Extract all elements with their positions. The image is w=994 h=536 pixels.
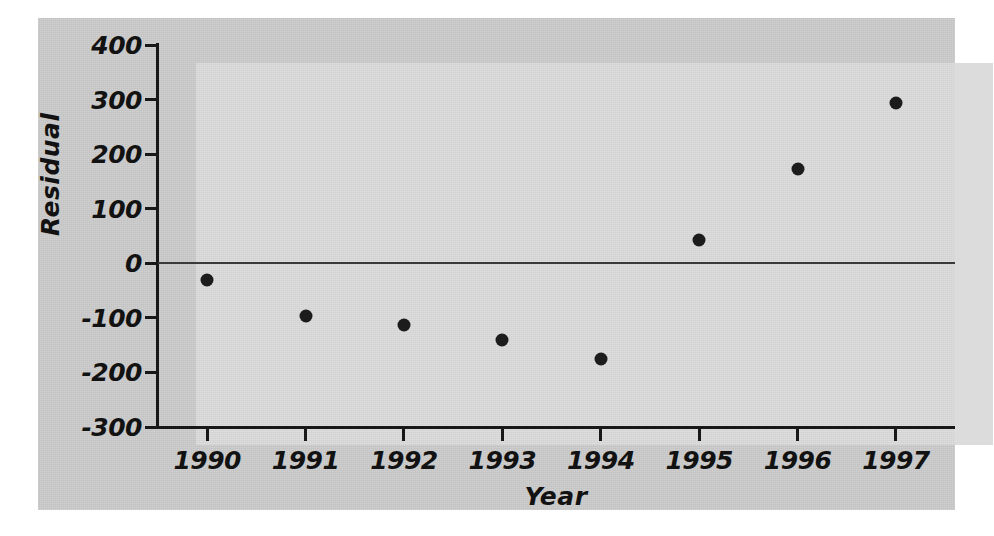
y-axis-tick-label: 300 — [32, 85, 142, 114]
data-point — [889, 96, 902, 109]
y-axis-tick — [145, 98, 157, 101]
y-axis-tick — [145, 262, 157, 265]
y-axis-tick — [145, 426, 157, 429]
x-axis-tick-label: 1991 — [272, 446, 340, 475]
data-point — [201, 274, 214, 287]
y-axis-tick-label: -100 — [32, 303, 142, 332]
y-axis-tick — [145, 44, 157, 47]
y-axis-title: Residual — [36, 112, 65, 236]
x-axis-tick-label: 1996 — [764, 446, 832, 475]
x-axis-tick — [599, 429, 602, 441]
x-axis-tick — [501, 429, 504, 441]
scanned-page: 4003002001000-100-200-300 19901991199219… — [0, 0, 994, 536]
data-point — [693, 234, 706, 247]
data-point — [397, 319, 410, 332]
x-axis-tick-label: 1997 — [862, 446, 930, 475]
x-axis-tick — [698, 429, 701, 441]
x-axis-title: Year — [524, 482, 587, 511]
x-axis-tick-label: 1993 — [469, 446, 537, 475]
y-axis-tick — [145, 316, 157, 319]
x-axis-tick — [894, 429, 897, 441]
x-axis-tick — [206, 429, 209, 441]
x-axis-tick-label: 1995 — [665, 446, 733, 475]
y-axis-tick — [145, 153, 157, 156]
y-axis-tick-label: -200 — [32, 358, 142, 387]
figure-background — [38, 18, 955, 510]
x-axis-tick-label: 1994 — [567, 446, 635, 475]
x-axis-tick-label: 1990 — [173, 446, 241, 475]
y-axis-tick-label: -300 — [32, 413, 142, 442]
data-point — [791, 162, 804, 175]
x-axis-tick — [796, 429, 799, 441]
data-point — [594, 352, 607, 365]
plot-panel — [196, 63, 993, 445]
x-axis-tick — [402, 429, 405, 441]
y-axis-tick-label: 0 — [32, 249, 142, 278]
y-axis-tick-labels: 4003002001000-100-200-300 — [20, 0, 142, 536]
y-axis-tick — [145, 371, 157, 374]
x-axis-tick-label: 1992 — [370, 446, 438, 475]
y-axis-tick-label: 400 — [32, 31, 142, 60]
x-axis-spine — [156, 426, 955, 429]
y-axis-tick — [145, 207, 157, 210]
data-point — [496, 334, 509, 347]
x-axis-tick — [304, 429, 307, 441]
zero-reference-line — [158, 262, 955, 264]
data-point — [299, 309, 312, 322]
